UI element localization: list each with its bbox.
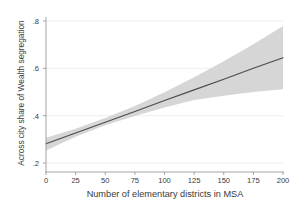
confidence-interval-area — [46, 26, 283, 150]
fit-line — [46, 58, 283, 144]
plot-canvas — [0, 0, 305, 211]
chart-figure: Across city share of Wealth segregation … — [0, 0, 305, 211]
confidence-band — [46, 26, 283, 150]
regression-line — [46, 58, 283, 144]
